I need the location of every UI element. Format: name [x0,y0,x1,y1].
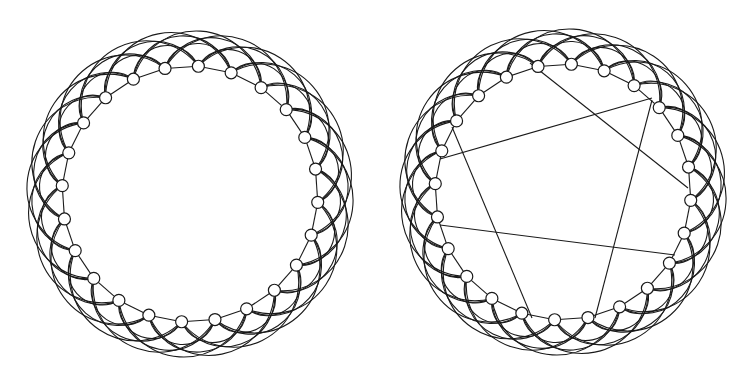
node [582,312,594,324]
node [100,92,112,104]
node [280,104,292,116]
shortcut-edge [530,63,688,188]
node [486,292,498,304]
lattice-edge [555,263,672,345]
edges [27,31,353,357]
lattice-edge [247,235,322,315]
node [299,131,311,143]
node [451,115,463,127]
edges [400,29,726,355]
node [113,294,125,306]
lattice-edge [43,74,133,185]
lattice-edge [198,47,309,137]
node [678,227,690,239]
lattice-edge [410,184,492,301]
node [516,307,528,319]
lattice-edge [247,202,337,313]
node [532,60,544,72]
shortcut-edge [440,225,675,255]
node [310,163,322,175]
node [159,62,171,74]
node [176,316,188,328]
node [653,102,665,114]
lattice-edge [69,251,149,326]
node [56,180,68,192]
node [500,71,512,83]
node [431,211,443,223]
node [290,259,302,271]
node [598,65,610,77]
lattice-edge [442,249,522,324]
lattice-edge [604,61,684,136]
lattice-edge [620,233,695,313]
lattice-edge [37,186,119,303]
node [614,301,626,313]
node [549,314,561,326]
node [143,309,155,321]
node [255,82,267,94]
lattice-edge [59,73,134,153]
lattice-edge [454,39,571,121]
lattice-edge [231,63,311,138]
lattice-edge [634,83,716,200]
lattice-edge [571,45,682,135]
node [685,194,697,206]
node [628,80,640,92]
node [88,272,100,284]
node [209,314,221,326]
node [672,129,684,141]
lattice-edge [443,249,554,339]
lattice-edge [432,71,507,151]
node [63,147,75,159]
lattice-edge [70,251,181,341]
node [429,178,441,190]
node [683,161,695,173]
lattice-edge [620,200,710,311]
lattice-edge [81,41,198,123]
node [436,145,448,157]
panel-regular-lattice [27,31,353,357]
node [312,196,324,208]
lattice-edge [416,72,506,183]
node [473,90,485,102]
node [442,243,454,255]
lattice-edge [182,265,299,347]
node [192,60,204,72]
node [225,67,237,79]
node [641,282,653,294]
node [565,58,577,70]
node [58,213,70,225]
node [78,117,90,129]
lattice-edge [261,85,343,202]
node [69,245,81,257]
shortcut-edge [440,98,652,159]
node [305,229,317,241]
panel-rewired-small-world [400,29,726,355]
node [241,303,253,315]
node [127,73,139,85]
node [268,284,280,296]
node [663,257,675,269]
ring-lattice-diagram [0,0,750,383]
node [461,270,473,282]
